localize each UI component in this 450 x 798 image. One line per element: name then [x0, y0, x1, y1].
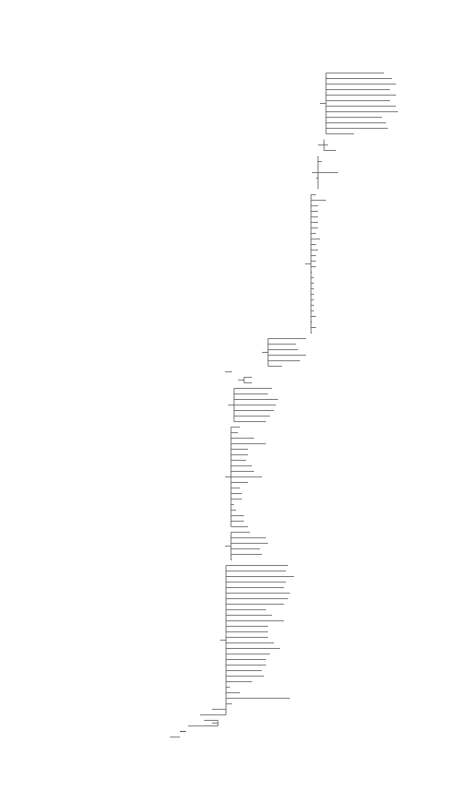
- phylogenetic-tree: [0, 0, 450, 798]
- tree-branches: [170, 73, 398, 737]
